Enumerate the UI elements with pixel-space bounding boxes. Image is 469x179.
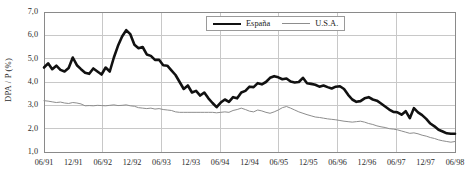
- x-axis-tick-label: 06/98: [438, 158, 469, 167]
- y-axis-tick-label: 6,0: [14, 30, 38, 39]
- y-axis-tick-label: 5,0: [14, 54, 38, 63]
- y-axis-tick-label: 2,0: [14, 124, 38, 133]
- legend-item-espana: España: [213, 19, 270, 28]
- y-axis-tick-label: 3,0: [14, 100, 38, 109]
- y-axis-tick-label: 1,0: [14, 147, 38, 156]
- grid-lines: [44, 12, 455, 152]
- chart-figure: DPA / P (%) 7,06,05,04,03,02,01,0 06/911…: [0, 0, 469, 179]
- y-axis-tick-label: 7,0: [14, 7, 38, 16]
- series-lines: [44, 30, 455, 142]
- chart-legend: España U.S.A.: [206, 16, 345, 31]
- legend-line-swatch-espana-icon: [213, 23, 241, 25]
- legend-label-espana: España: [246, 19, 270, 28]
- y-axis-tick-label: 4,0: [14, 77, 38, 86]
- legend-line-swatch-usa-icon: [282, 23, 310, 24]
- legend-label-usa: U.S.A.: [315, 19, 338, 28]
- series-line-usa: [44, 101, 455, 143]
- legend-item-usa: U.S.A.: [282, 19, 338, 28]
